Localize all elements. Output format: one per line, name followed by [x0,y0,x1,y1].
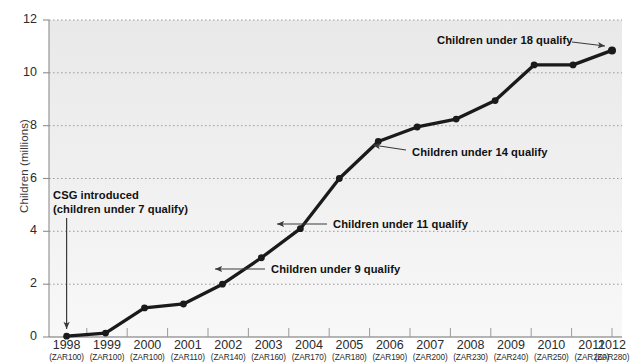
x-tick-zar: (ZAR280) [585,354,633,363]
line-chart-plot [0,0,633,363]
data-point [608,46,616,54]
data-point [375,138,382,145]
annotation-csg-line1: CSG introduced [53,189,139,201]
y-axis-title: Children (millions) [18,86,30,246]
data-point [453,116,460,123]
data-point [102,330,109,337]
annotation-csg-introduced: CSG introduced (children under 7 qualify… [53,188,228,217]
x-tick-year: 2012 [585,339,633,352]
y-tick-label-12: 12 [11,13,37,26]
x-tick-2012: 2012 (ZAR280) [585,339,633,363]
data-point [531,62,538,69]
annotation-csg-line2: (children under 7 qualify) [53,203,188,215]
y-tick-label-8: 8 [11,119,37,132]
chart-container: Children (millions) 12 10 8 6 4 2 0 1998… [0,0,633,363]
y-tick-label-6: 6 [11,172,37,185]
annotation-under-11: Children under 11 qualify [333,218,468,230]
data-point [414,124,421,131]
y-tick-label-0: 0 [11,330,37,343]
y-axis-ticks [43,20,49,337]
data-point [570,62,577,69]
data-point [258,254,265,261]
y-tick-label-4: 4 [11,224,37,237]
data-point [141,305,148,312]
data-point [219,281,226,288]
data-point [180,301,187,308]
annotation-under-18: Children under 18 qualify [437,34,573,46]
data-point [492,97,499,104]
y-tick-label-10: 10 [11,66,37,79]
annotation-under-9: Children under 9 qualify [271,263,400,275]
annotation-under-14: Children under 14 qualify [412,146,548,158]
y-tick-label-2: 2 [11,277,37,290]
data-point [336,175,343,182]
data-point [297,225,304,232]
